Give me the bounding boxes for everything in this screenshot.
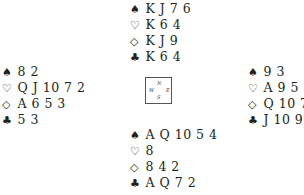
west-hearts: ♡ Q J 10 7 2: [2, 80, 85, 96]
club-icon: ♣: [130, 50, 141, 66]
east-clubs: ♣ J 10 9 8: [248, 112, 304, 128]
east-spades: ♠ 9 3: [248, 64, 304, 80]
west-spades: ♠ 8 2: [2, 64, 85, 80]
spade-icon: ♠: [248, 65, 259, 81]
diamond-icon: ◇: [130, 34, 141, 50]
south-diamonds: ◇ 8 4 2: [130, 159, 217, 175]
heart-icon: ♡: [130, 18, 141, 34]
club-icon: ♣: [248, 113, 259, 129]
heart-icon: ♡: [248, 81, 259, 97]
compass-south-label: S: [157, 95, 160, 100]
south-hearts: ♡ 8: [130, 143, 217, 159]
diamond-icon: ◇: [2, 97, 13, 113]
north-diamonds: ◇ K J 9: [130, 33, 191, 49]
east-hearts: ♡ A 9 5 3: [248, 80, 304, 96]
south-spades: ♠ A Q 10 5 4: [130, 127, 217, 143]
compass-east-label: E: [166, 88, 170, 93]
spade-icon: ♠: [130, 128, 141, 144]
west-clubs: ♣ 5 3: [2, 112, 85, 128]
south-clubs: ♣ A Q 7 2: [130, 175, 217, 191]
north-hearts: ♡ K 6 4: [130, 17, 191, 33]
west-diamonds: ◇ A 6 5 3: [2, 96, 85, 112]
compass-box: N W E S: [145, 77, 172, 104]
south-hand: ♠ A Q 10 5 4 ♡ 8 ◇ 8 4 2 ♣ A Q 7 2: [130, 127, 217, 191]
heart-icon: ♡: [2, 81, 13, 97]
west-hand: ♠ 8 2 ♡ Q J 10 7 2 ◇ A 6 5 3 ♣ 5 3: [2, 64, 85, 128]
club-icon: ♣: [130, 176, 141, 192]
north-hand: ♠ K J 7 6 ♡ K 6 4 ◇ K J 9 ♣ K 6 4: [130, 1, 191, 65]
spade-icon: ♠: [130, 2, 141, 18]
spade-icon: ♠: [2, 65, 13, 81]
compass-west-label: W: [149, 88, 154, 93]
north-clubs: ♣ K 6 4: [130, 49, 191, 65]
east-hand: ♠ 9 3 ♡ A 9 5 3 ◇ Q 10 7 ♣ J 10 9 8: [248, 64, 304, 128]
north-spades: ♠ K J 7 6: [130, 1, 191, 17]
east-diamonds: ◇ Q 10 7: [248, 96, 304, 112]
compass-north-label: N: [157, 81, 161, 86]
diamond-icon: ◇: [130, 160, 141, 176]
heart-icon: ♡: [130, 144, 141, 160]
diamond-icon: ◇: [248, 97, 259, 113]
club-icon: ♣: [2, 113, 13, 129]
